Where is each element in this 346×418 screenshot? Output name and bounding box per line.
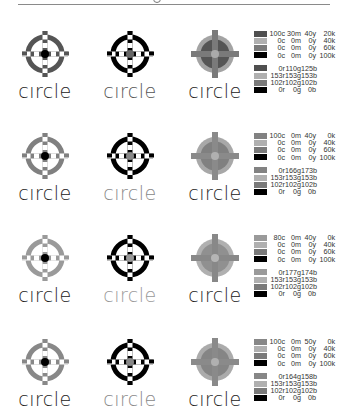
logo-row: cırclecırclecırcle100c0m40y0k0c0m0y40k0c… <box>0 132 346 232</box>
color-swatch <box>254 133 267 139</box>
logo-black-ring: cırcle <box>95 234 165 314</box>
value-m: 0m <box>285 154 301 161</box>
color-swatch <box>254 381 267 387</box>
value-r: 0r <box>269 394 285 401</box>
cmyk-values: 100c0m40y0k0c0m0y40k0c0m0y60k0c0m0y100k <box>254 132 346 161</box>
legend-row: 0c0m0y100k <box>254 360 346 367</box>
color-swatch <box>254 339 267 345</box>
logo-filled: cırcle <box>180 338 250 418</box>
color-swatch <box>254 31 267 37</box>
cmyk-values: 100c30m40y20k0c0m0y40k0c0m0y60k0c0m0y100… <box>254 30 346 59</box>
color-swatch <box>254 167 267 173</box>
color-swatch <box>254 147 267 153</box>
wordmark-text: cırcle <box>95 80 165 102</box>
rgb-values: 0r166g173b153r153g153b102r102g102b0r0g0b <box>254 167 346 196</box>
color-swatch <box>254 154 267 160</box>
legend-row: 0r0g0b <box>254 394 346 401</box>
color-swatch <box>254 235 267 241</box>
wordmark-text: cırcle <box>180 182 250 204</box>
crosshair-circle-icon <box>191 30 239 78</box>
value-r: 0r <box>269 290 285 297</box>
wordmark-text: cırcle <box>10 284 80 306</box>
color-swatch <box>254 175 267 181</box>
crosshair-circle-icon <box>106 338 154 386</box>
color-swatch <box>254 182 267 188</box>
logo-row: cırclecırclecırcle100c30m40y20k0c0m0y40k… <box>0 30 346 130</box>
rgb-values: 0r164g158b153r153g153b102r102g102b0r0g0b <box>254 373 346 402</box>
logo-color-ring: cırcle <box>10 30 80 110</box>
wordmark-text: cırcle <box>95 182 165 204</box>
value-y: 0y <box>301 52 316 59</box>
value-m: 0m <box>285 360 301 367</box>
rgb-values: 0r177g174b153r153g153b102r102g102b0r0g0b <box>254 269 346 298</box>
logo-filled: cırcle <box>180 132 250 212</box>
cmyk-values: 100c0m50y0k0c0m0y40k0c0m0y60k0c0m0y100k <box>254 338 346 367</box>
color-spec-legend: 100c0m40y0k0c0m0y40k0c0m0y60k0c0m0y100k0… <box>254 132 346 202</box>
color-swatch <box>254 242 267 248</box>
logo-color-ring: cırcle <box>10 338 80 418</box>
value-g: 0g <box>285 86 301 93</box>
color-swatch <box>254 346 267 352</box>
crosshair-circle-icon <box>21 338 69 386</box>
wordmark-text: cırcle <box>180 388 250 410</box>
value-c: 0c <box>269 154 285 161</box>
crosshair-circle-icon <box>106 234 154 282</box>
wordmark-text: cırcle <box>10 80 80 102</box>
logo-black-ring: cırcle <box>95 30 165 110</box>
crosshair-circle-icon <box>191 132 239 180</box>
top-divider <box>18 4 330 5</box>
color-swatch <box>254 353 267 359</box>
color-swatch <box>254 373 267 379</box>
value-k: 100k <box>316 154 335 161</box>
value-g: 0g <box>285 188 301 195</box>
logo-black-ring: cırcle <box>95 132 165 212</box>
color-swatch <box>254 291 267 297</box>
logo-color-ring: cırcle <box>10 132 80 212</box>
value-m: 0m <box>285 256 301 263</box>
logo-color-ring: cırcle <box>10 234 80 314</box>
color-swatch <box>254 65 267 71</box>
value-y: 0y <box>301 154 316 161</box>
color-swatch <box>254 73 267 79</box>
value-b: 0b <box>301 394 316 401</box>
crosshair-circle-icon <box>191 338 239 386</box>
color-swatch <box>254 277 267 283</box>
crosshair-circle-icon <box>21 30 69 78</box>
color-swatch <box>254 80 267 86</box>
wordmark-text: cırcle <box>10 182 80 204</box>
value-c: 0c <box>269 52 285 59</box>
value-b: 0b <box>301 290 316 297</box>
logo-filled: cırcle <box>180 234 250 314</box>
color-swatch <box>254 249 267 255</box>
logo-row: cırclecırclecırcle100c0m50y0k0c0m0y40k0c… <box>0 338 346 418</box>
value-r: 0r <box>269 188 285 195</box>
logo-row: cırclecırclecırcle80c0m40y0k0c0m0y40k0c0… <box>0 234 346 334</box>
color-swatch <box>254 360 267 366</box>
value-b: 0b <box>301 188 316 195</box>
legend-row: 0c0m0y100k <box>254 154 346 161</box>
crosshair-circle-icon <box>106 132 154 180</box>
color-swatch <box>254 45 267 51</box>
legend-row: 0r0g0b <box>254 290 346 297</box>
logo-black-ring: cırcle <box>95 338 165 418</box>
crosshair-circle-icon <box>21 132 69 180</box>
header-circle-icon <box>153 0 161 3</box>
value-m: 0m <box>285 52 301 59</box>
value-g: 0g <box>285 290 301 297</box>
wordmark-text: cırcle <box>95 388 165 410</box>
value-g: 0g <box>285 394 301 401</box>
color-swatch <box>254 52 267 58</box>
color-swatch <box>254 256 267 262</box>
value-k: 100k <box>316 52 335 59</box>
legend-row: 0r0g0b <box>254 188 346 195</box>
value-c: 0c <box>269 360 285 367</box>
wordmark-text: cırcle <box>95 284 165 306</box>
color-swatch <box>254 189 267 195</box>
color-swatch <box>254 269 267 275</box>
legend-row: 0c0m0y100k <box>254 52 346 59</box>
legend-row: 0r0g0b <box>254 86 346 93</box>
value-y: 0y <box>301 256 316 263</box>
color-swatch <box>254 284 267 290</box>
color-swatch <box>254 87 267 93</box>
value-y: 0y <box>301 360 316 367</box>
